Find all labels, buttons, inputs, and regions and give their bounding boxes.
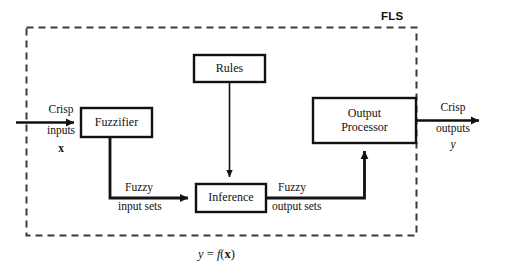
output-processor-label-line1: Output (348, 107, 381, 120)
fls-title: FLS (381, 10, 403, 22)
output-processor-label: Output Processor (313, 98, 416, 143)
system-equation: y = f(x) (198, 248, 235, 261)
equation-operator: = (204, 247, 217, 261)
fls-block-diagram: FLS Fuzzifier Rules Inference Output Pro… (0, 0, 505, 274)
crisp-inputs-symbol: x (33, 142, 89, 154)
crisp-outputs-symbol: y (424, 138, 482, 150)
rules-label: Rules (194, 55, 265, 82)
crisp-inputs-label: Crisp inputs x (33, 103, 89, 154)
inference-label-text: Inference (208, 191, 253, 204)
crisp-outputs-line2: outputs (424, 122, 482, 134)
output-processor-label-line2: Processor (341, 121, 388, 134)
fuzzy-output-sets-label: Fuzzy output sets (272, 181, 322, 212)
fuzzy-input-sets-label: Fuzzy input sets (118, 181, 162, 212)
fuzzy-output-sets-line1: Fuzzy (272, 181, 322, 193)
equation-paren-close: ) (231, 247, 235, 261)
crisp-outputs-label: Crisp outputs y (424, 101, 482, 150)
inference-label: Inference (196, 184, 266, 212)
fuzzifier-label: Fuzzifier (81, 108, 152, 137)
fuzzy-input-sets-line2: input sets (118, 200, 162, 212)
rules-label-text: Rules (216, 62, 243, 75)
crisp-inputs-line2: inputs (33, 124, 89, 136)
crisp-outputs-line1: Crisp (424, 101, 482, 113)
fuzzy-output-sets-line2: output sets (272, 200, 322, 212)
fuzzy-input-sets-line1: Fuzzy (118, 181, 162, 193)
crisp-inputs-line1: Crisp (33, 103, 89, 115)
fuzzifier-label-text: Fuzzifier (95, 116, 138, 129)
